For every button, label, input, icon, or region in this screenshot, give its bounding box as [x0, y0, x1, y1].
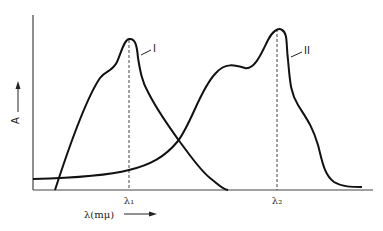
y-arrow-up-icon	[16, 81, 21, 89]
x-arrow-right-icon	[149, 212, 157, 217]
absorption-spectra-chart: A λ(mμ) λ₁ λ₂ I II	[0, 0, 383, 231]
chart-canvas	[0, 0, 383, 231]
curve-II	[33, 29, 362, 187]
curve-II-label: II	[304, 45, 310, 56]
x-axis-label: λ(mμ)	[84, 209, 114, 220]
curve-II-leader	[291, 52, 302, 57]
curve-I-leader	[141, 50, 151, 55]
lambda2-tick-label: λ₂	[272, 195, 282, 206]
curve-I-label: I	[153, 43, 156, 54]
y-axis-label: A	[10, 117, 21, 124]
lambda1-tick-label: λ₁	[124, 195, 134, 206]
